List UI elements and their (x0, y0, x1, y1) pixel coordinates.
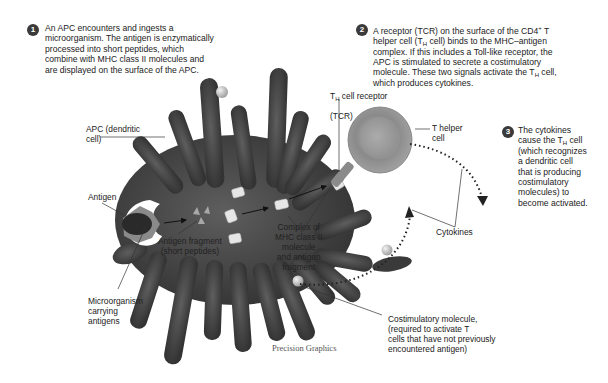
step-3-text: The cytokines cause the TH cell (which r… (518, 125, 608, 208)
step-2-badge: 2 (356, 24, 368, 36)
label-apc: APC (dendritic cell) (86, 124, 140, 144)
costimulatory-molecule (216, 86, 228, 98)
step-1-text: An APC encounters and ingests a microorg… (45, 23, 255, 75)
label-cytokines: Cytokines (436, 227, 473, 237)
costimulatory-molecule (382, 245, 393, 256)
label-t-helper-cell: T helper cell (432, 123, 463, 143)
costimulatory-molecule (293, 276, 304, 287)
label-microorganism: Microorganism carrying antigens (88, 296, 143, 326)
credit: Precision Graphics (272, 343, 336, 353)
step-1-badge: 1 (27, 24, 39, 36)
label-antigen-fragment: Antigen fragment (short peptides) (158, 236, 222, 256)
step-3-badge: 3 (502, 126, 514, 138)
diagram-canvas: 1 An APC encounters and ingests a microo… (0, 0, 608, 383)
label-costimulatory: Costimulatory molecule, (required to act… (388, 314, 496, 354)
label-antigen: Antigen (88, 192, 116, 202)
label-complex: Complex of MHC class II molecule and ant… (275, 222, 322, 272)
step-2-text: A receptor (TCR) on the surface of the C… (373, 23, 608, 88)
label-tcr: TH cell receptor (TCR) (330, 81, 387, 131)
